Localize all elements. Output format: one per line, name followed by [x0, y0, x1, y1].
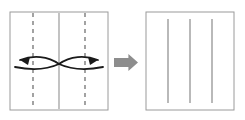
paper-folding-diagram	[0, 0, 245, 120]
after-panel-group	[146, 12, 234, 110]
diagram-canvas	[0, 0, 245, 120]
transition-arrow-icon	[114, 54, 138, 71]
transition-arrow-group	[114, 54, 138, 71]
